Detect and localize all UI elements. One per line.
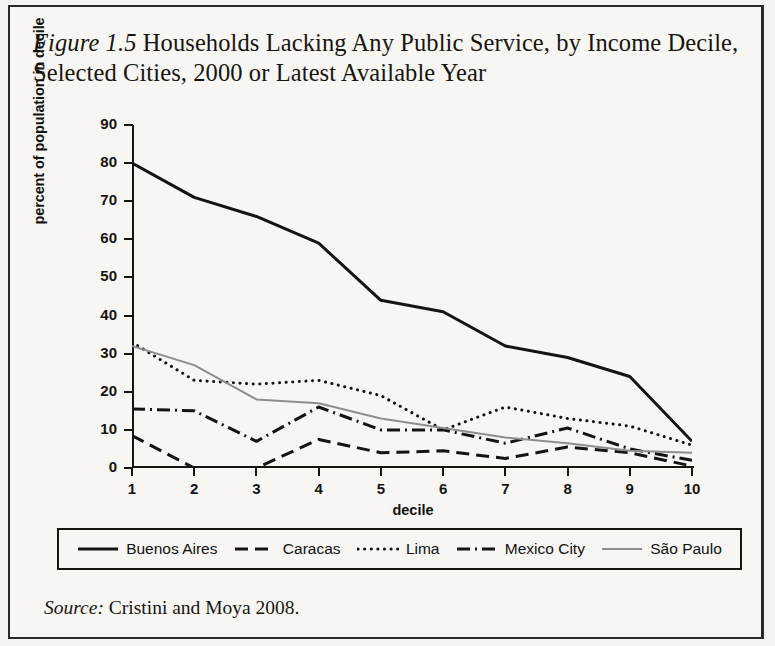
legend-item-mexico-city[interactable]: Mexico City bbox=[456, 540, 585, 558]
y-tick-label: 50 bbox=[71, 267, 117, 284]
legend-label: Caracas bbox=[283, 540, 341, 558]
x-tick-label: 7 bbox=[490, 480, 520, 497]
y-tick-label: 0 bbox=[71, 458, 117, 475]
x-tick-mark bbox=[567, 468, 569, 476]
series-line-são-paulo bbox=[132, 346, 692, 453]
x-tick-mark bbox=[193, 468, 195, 476]
x-tick-mark bbox=[380, 468, 382, 476]
x-tick-mark bbox=[131, 468, 133, 476]
y-axis-label: percent of population in decile bbox=[31, 6, 47, 236]
legend-swatch-icon bbox=[601, 542, 643, 556]
legend-swatch-icon bbox=[456, 542, 498, 556]
legend-item-lima[interactable]: Lima bbox=[357, 540, 440, 558]
figure-page: Figure 1.5 Households Lacking Any Public… bbox=[0, 0, 775, 646]
chart-legend: Buenos AiresCaracasLimaMexico CitySão Pa… bbox=[57, 528, 742, 570]
chart-container: percent of population in decile 01020304… bbox=[33, 108, 733, 508]
x-tick-label: 1 bbox=[117, 480, 147, 497]
legend-label: Mexico City bbox=[505, 540, 585, 558]
y-tick-label: 30 bbox=[71, 344, 117, 361]
figure-title: Figure 1.5 Households Lacking Any Public… bbox=[33, 28, 745, 88]
x-tick-label: 2 bbox=[179, 480, 209, 497]
x-tick-mark bbox=[255, 468, 257, 476]
x-tick-label: 8 bbox=[553, 480, 583, 497]
legend-swatch-icon bbox=[357, 542, 399, 556]
y-tick-label: 70 bbox=[71, 191, 117, 208]
legend-swatch-icon bbox=[234, 542, 276, 556]
legend-label: Lima bbox=[406, 540, 440, 558]
source-text: Cristini and Moya 2008. bbox=[109, 597, 300, 618]
legend-label: Buenos Aires bbox=[126, 540, 217, 558]
y-tick-label: 60 bbox=[71, 229, 117, 246]
legend-item-são-paulo[interactable]: São Paulo bbox=[601, 540, 722, 558]
figure-title-text: Households Lacking Any Public Service, b… bbox=[33, 29, 738, 86]
x-tick-label: 4 bbox=[304, 480, 334, 497]
figure-number: Figure 1.5 bbox=[33, 29, 137, 56]
legend-label: São Paulo bbox=[650, 540, 722, 558]
x-tick-label: 9 bbox=[615, 480, 645, 497]
source-note: Source: Cristini and Moya 2008. bbox=[44, 597, 299, 619]
y-tick-label: 90 bbox=[71, 115, 117, 132]
x-tick-label: 10 bbox=[677, 480, 707, 497]
x-tick-label: 3 bbox=[241, 480, 271, 497]
y-tick-label: 20 bbox=[71, 382, 117, 399]
x-tick-mark bbox=[629, 468, 631, 476]
legend-item-buenos-aires[interactable]: Buenos Aires bbox=[77, 540, 217, 558]
y-tick-label: 40 bbox=[71, 306, 117, 323]
x-tick-label: 6 bbox=[428, 480, 458, 497]
x-tick-mark bbox=[691, 468, 693, 476]
legend-swatch-icon bbox=[77, 542, 119, 556]
series-line-mexico-city bbox=[132, 407, 692, 460]
source-prefix: Source: bbox=[44, 597, 104, 618]
x-tick-mark bbox=[442, 468, 444, 476]
series-line-lima bbox=[132, 342, 692, 445]
x-axis-label: decile bbox=[132, 502, 694, 518]
x-tick-mark bbox=[504, 468, 506, 476]
legend-item-caracas[interactable]: Caracas bbox=[234, 540, 341, 558]
y-tick-label: 10 bbox=[71, 420, 117, 437]
plot-area bbox=[132, 125, 692, 468]
series-line-buenos-aires bbox=[132, 163, 692, 441]
x-tick-mark bbox=[318, 468, 320, 476]
x-tick-label: 5 bbox=[366, 480, 396, 497]
y-tick-label: 80 bbox=[71, 153, 117, 170]
